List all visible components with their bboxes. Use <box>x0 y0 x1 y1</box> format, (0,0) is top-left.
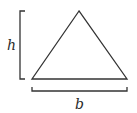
base-label: b <box>75 97 84 111</box>
height-label: h <box>7 38 16 52</box>
base-bracket <box>32 87 127 91</box>
triangle-diagram <box>0 0 137 113</box>
triangle <box>32 11 127 79</box>
height-bracket <box>20 11 25 79</box>
